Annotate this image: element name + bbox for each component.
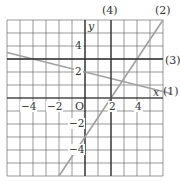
y-tick-minus4: −4 (68, 144, 85, 155)
origin-label: O (75, 101, 84, 112)
x-axis-label: x (153, 87, 159, 98)
line-4-label: (4) (102, 5, 118, 16)
y-axis-label: y (88, 21, 94, 32)
x-tick-4: 4 (134, 101, 143, 112)
x-tick-minus2: −2 (46, 101, 63, 112)
y-tick-2: 2 (74, 66, 83, 77)
line-2-label: (2) (155, 5, 171, 16)
line-3-label: (3) (165, 55, 180, 66)
x-tick-2: 2 (108, 101, 117, 112)
y-tick-minus2: −2 (68, 118, 85, 129)
line-1-label: (1) (163, 86, 179, 97)
y-tick-4: 4 (74, 40, 83, 51)
x-tick-minus4: −4 (20, 101, 37, 112)
